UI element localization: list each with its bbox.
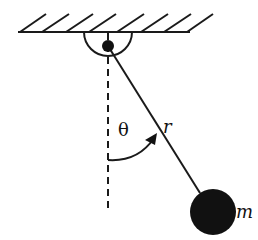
angle-label: θ bbox=[118, 119, 129, 140]
pivot-point bbox=[102, 40, 114, 52]
ceiling-support bbox=[18, 14, 213, 32]
mass-label: m bbox=[236, 201, 253, 222]
angle-arc bbox=[108, 138, 154, 160]
pendulum-bob bbox=[190, 189, 236, 235]
ceiling-hatching bbox=[20, 14, 213, 32]
pendulum-diagram: θ r m bbox=[0, 0, 258, 240]
length-label: r bbox=[163, 116, 173, 137]
